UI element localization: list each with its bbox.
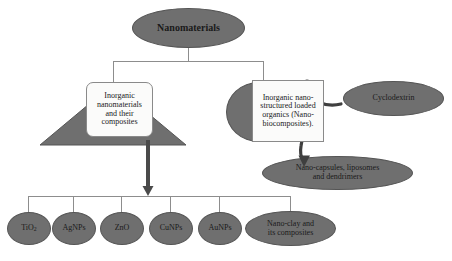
node-nanocapsules-line2: and dendrimers bbox=[310, 173, 366, 182]
node-leaf-zno[interactable]: ZnO bbox=[100, 212, 144, 245]
node-nanomaterials[interactable]: Nanomaterials bbox=[132, 8, 245, 48]
node-inorganic-nanomaterials-line4: composites bbox=[102, 118, 138, 127]
diagram-canvas: Nanomaterials Inorganic nanomaterials an… bbox=[0, 0, 452, 261]
node-leaf-nanoclay[interactable]: Nano-clay and its composites bbox=[245, 211, 336, 246]
node-inorganic-nanostructured-organics-line4: biocomposites). bbox=[263, 120, 314, 129]
node-leaf-cunps[interactable]: CuNPs bbox=[149, 212, 193, 245]
node-nanomaterials-label: Nanomaterials bbox=[154, 23, 223, 34]
node-leaf-zno-label: ZnO bbox=[112, 224, 133, 233]
node-nanocapsules-liposomes-dendrimers[interactable]: Nano-capsules, liposomes and dendrimers bbox=[262, 156, 413, 190]
node-leaf-cunps-label: CuNPs bbox=[157, 224, 186, 233]
node-leaf-tio2[interactable]: TiO2 bbox=[7, 212, 51, 245]
arrow-pyramid-to-leaves bbox=[143, 140, 154, 196]
subscript: 2 bbox=[34, 226, 37, 232]
node-leaf-aunps[interactable]: AuNPs bbox=[198, 212, 242, 245]
node-cyclodextrin[interactable]: Cyclodextrin bbox=[343, 81, 444, 116]
node-leaf-nanoclay-line2: its composites bbox=[265, 229, 317, 238]
node-inorganic-nanostructured-organics[interactable]: Inorganic nano- structured loaded organi… bbox=[252, 80, 324, 142]
node-leaf-aunps-label: AuNPs bbox=[205, 224, 234, 233]
node-leaf-tio2-label: TiO2 bbox=[18, 224, 39, 233]
node-leaf-agnps-label: AgNPs bbox=[59, 224, 88, 233]
node-inorganic-nanomaterials[interactable]: Inorganic nanomaterials and their compos… bbox=[86, 82, 153, 137]
node-cyclodextrin-label: Cyclodextrin bbox=[370, 94, 418, 103]
node-leaf-agnps[interactable]: AgNPs bbox=[52, 212, 96, 245]
